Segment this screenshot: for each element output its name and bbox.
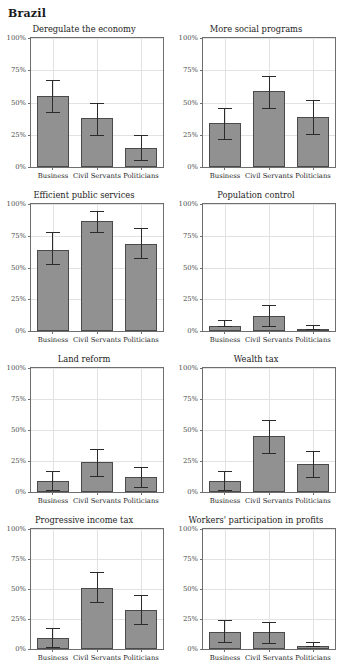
x-tick-label-business: Business [210,172,240,180]
errorbar-cap-upper-business [218,471,232,472]
errorbar-line-civil-servants [269,306,270,328]
y-tick-mark [200,619,203,620]
panel-wealth-tax: Wealth tax100%75%50%25%0%BusinessCivil S… [172,354,344,515]
x-tick-mark [224,492,225,495]
y-tick-label: 100% [179,364,198,372]
x-tick-label-business: Business [38,336,68,344]
panel-title: Deregulate the economy [0,24,168,34]
y-tick-mark [200,236,203,237]
errorbar-line-business [52,81,53,113]
y-tick-mark [200,135,203,136]
y-tick-mark [28,461,31,462]
y-tick-label: 25% [183,457,198,465]
errorbar-cap-upper-civil-servants [262,305,276,306]
x-tick-mark [97,331,98,334]
plot-wrapper: 100%75%50%25%0%BusinessCivil ServantsPol… [202,367,336,493]
x-tick-mark [224,331,225,334]
x-tick-mark [141,331,142,334]
errorbar-cap-lower-politicians [306,329,320,330]
errorbar-cap-upper-business [46,628,60,629]
errorbar-line-politicians [313,101,314,135]
plot-wrapper: 100%75%50%25%0%BusinessCivil ServantsPol… [30,528,164,650]
errorbar-line-business [224,621,225,643]
errorbar-cap-upper-civil-servants [262,420,276,421]
x-tick-label-business: Business [210,654,240,662]
y-tick-mark [28,331,31,332]
errorbar-cap-upper-politicians [134,467,148,468]
plot-area: 100%75%50%25%0%BusinessCivil ServantsPol… [30,528,164,650]
x-tick-mark [141,167,142,170]
y-tick-mark [200,461,203,462]
plot-wrapper: 100%75%50%25%0%BusinessCivil ServantsPol… [202,203,336,332]
y-tick-mark [28,299,31,300]
plot-area: 100%75%50%25%0%BusinessCivil ServantsPol… [202,367,336,493]
x-tick-mark [97,492,98,495]
y-tick-mark [28,236,31,237]
y-tick-label: 25% [183,131,198,139]
x-tick-mark [269,649,270,652]
y-tick-label: 75% [11,555,26,563]
y-tick-mark [28,204,31,205]
bar-civil-servants [81,221,114,331]
errorbar-cap-lower-civil-servants [90,602,104,603]
y-tick-label: 50% [183,426,198,434]
y-tick-mark [28,103,31,104]
figure-container: Brazil Deregulate the economy100%75%50%2… [0,0,344,672]
y-tick-mark [200,331,203,332]
x-tick-label-business: Business [38,172,68,180]
y-tick-label: 25% [11,615,26,623]
panel-title: Wealth tax [172,354,340,364]
errorbar-cap-lower-civil-servants [90,232,104,233]
errorbar-cap-upper-politicians [306,451,320,452]
y-tick-label: 25% [11,457,26,465]
y-tick-label: 0% [15,488,26,496]
errorbar-cap-upper-civil-servants [90,103,104,104]
gridline-vertical [313,204,314,331]
x-tick-label-civil-servants: Civil Servants [245,172,293,180]
y-tick-label: 0% [187,327,198,335]
y-tick-mark [200,299,203,300]
y-tick-label: 25% [183,615,198,623]
errorbar-line-business [52,233,53,265]
errorbar-cap-lower-business [46,264,60,265]
errorbar-line-civil-servants [97,450,98,477]
y-tick-label: 100% [179,34,198,42]
plot-wrapper: 100%75%50%25%0%BusinessCivil ServantsPol… [30,203,164,332]
y-tick-mark [200,559,203,560]
errorbar-cap-upper-politicians [306,325,320,326]
y-tick-label: 50% [183,585,198,593]
y-tick-label: 100% [179,200,198,208]
errorbar-cap-lower-business [218,139,232,140]
errorbar-cap-lower-politicians [134,487,148,488]
x-tick-label-civil-servants: Civil Servants [73,497,121,505]
y-tick-label: 75% [183,66,198,74]
errorbar-cap-lower-business [218,326,232,327]
x-tick-mark [97,649,98,652]
y-tick-mark [200,492,203,493]
y-tick-mark [28,399,31,400]
y-tick-mark [28,649,31,650]
errorbar-line-politicians [141,596,142,625]
x-tick-label-civil-servants: Civil Servants [73,654,121,662]
y-tick-mark [200,167,203,168]
errorbar-line-civil-servants [269,421,270,453]
x-tick-label-civil-servants: Civil Servants [245,336,293,344]
y-tick-mark [200,368,203,369]
errorbar-cap-lower-politicians [306,134,320,135]
errorbar-cap-lower-civil-servants [90,476,104,477]
y-tick-label: 0% [15,645,26,653]
y-tick-mark [28,38,31,39]
y-tick-label: 25% [11,295,26,303]
errorbar-cap-upper-civil-servants [90,449,104,450]
y-tick-label: 75% [11,395,26,403]
y-tick-label: 25% [11,131,26,139]
plot-area: 100%75%50%25%0%BusinessCivil ServantsPol… [202,203,336,332]
y-tick-label: 100% [7,200,26,208]
panel-progressive-income-tax: Progressive income tax100%75%50%25%0%Bus… [0,515,172,672]
panel-efficient-public-services: Efficient public services100%75%50%25%0%… [0,190,172,354]
y-tick-label: 50% [11,264,26,272]
y-tick-mark [200,204,203,205]
y-tick-mark [200,103,203,104]
x-tick-label-politicians: Politicians [295,336,331,344]
y-tick-label: 100% [7,364,26,372]
